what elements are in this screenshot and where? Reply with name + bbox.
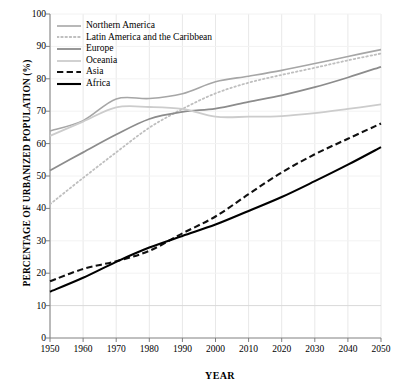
legend-item[interactable]: Latin America and the Caribbean [57,32,212,44]
legend-item[interactable]: Africa [57,78,212,90]
legend-swatch-icon [57,21,81,31]
legend-swatch-icon [57,32,81,42]
legend-swatch-icon [57,56,81,66]
legend-label: Africa [86,78,110,90]
legend-item[interactable]: Oceania [57,55,212,67]
legend-swatch-icon [57,44,81,54]
legend-label: Northern America [86,20,155,32]
legend-label: Europe [86,43,113,55]
legend-item[interactable]: Europe [57,43,212,55]
y-axis-title: PERCENTAGE OF URBANIZED POPULATION (%) [18,8,36,338]
legend-swatch-icon [57,79,81,89]
legend-label: Latin America and the Caribbean [86,32,212,44]
chart-legend: Northern AmericaLatin America and the Ca… [57,20,212,90]
legend-item[interactable]: Northern America [57,20,212,32]
legend-label: Asia [86,66,103,78]
x-axis-title: YEAR [50,370,390,381]
urbanization-line-chart: 1009080706050403020100 19501960197019801… [0,0,393,390]
x-tick-label: 2050 [361,344,393,354]
legend-item[interactable]: Asia [57,66,212,78]
legend-swatch-icon [57,67,81,77]
legend-label: Oceania [86,55,117,67]
